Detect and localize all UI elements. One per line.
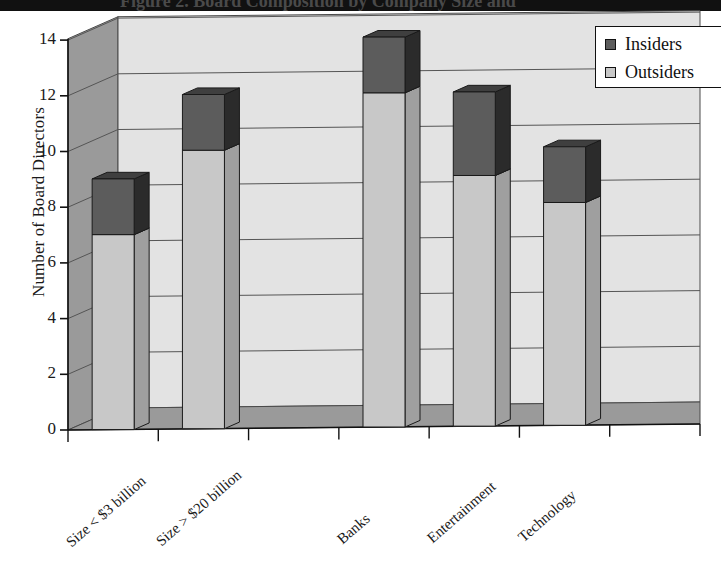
y-tick-label: 4 <box>26 308 56 328</box>
chart-legend: Insiders Outsiders <box>595 26 721 88</box>
legend-label-insiders: Insiders <box>625 34 682 55</box>
y-tick-label: 14 <box>26 29 56 49</box>
legend-swatch-outsiders-icon <box>605 67 616 78</box>
y-tick-label: 8 <box>26 196 56 216</box>
y-tick-label: 2 <box>26 363 56 383</box>
legend-swatch-insiders-icon <box>605 39 616 50</box>
legend-item-insiders[interactable]: Insiders <box>605 34 682 55</box>
legend-label-outsiders: Outsiders <box>625 62 694 83</box>
y-tick-label: 0 <box>26 419 56 439</box>
chart-root: Figure 2. Board Composition by Company S… <box>0 0 721 567</box>
y-tick-label: 6 <box>26 252 56 272</box>
y-tick-label: 10 <box>26 141 56 161</box>
legend-item-outsiders[interactable]: Outsiders <box>605 62 694 83</box>
y-tick-label: 12 <box>26 85 56 105</box>
